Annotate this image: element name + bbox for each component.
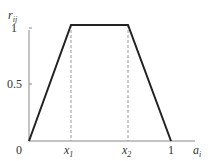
x-tick-label-1: 1 <box>168 144 174 156</box>
y-tick-label-half: 0.5 <box>7 78 22 90</box>
chart-canvas <box>0 0 217 161</box>
membership-line <box>29 25 171 141</box>
x2-label: x2 <box>122 144 131 159</box>
x1-label: x1 <box>64 144 73 159</box>
y-tick-label-1: 1 <box>11 22 17 34</box>
x-axis-label: ai <box>193 144 201 159</box>
origin-label: 0 <box>16 144 22 156</box>
